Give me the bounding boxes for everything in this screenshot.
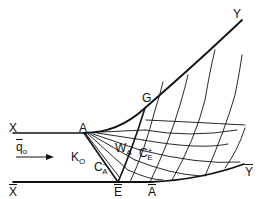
label-x: X	[9, 122, 17, 134]
diagram-lines	[0, 0, 261, 199]
upper-wall-curve	[84, 20, 242, 133]
label-e-bar: E	[114, 186, 122, 198]
label-g: G	[142, 92, 151, 104]
diagram: X X Y Y A A G E qo KO WA C−A C+E	[0, 0, 261, 199]
label-ce-plus: C+E	[139, 147, 153, 159]
label-a-bar: A	[148, 186, 156, 198]
label-a: A	[79, 122, 87, 134]
label-y: Y	[233, 8, 241, 20]
label-x-bar: X	[9, 186, 17, 198]
label-k0: KO	[71, 151, 85, 163]
label-wa: WA	[115, 142, 132, 154]
label-q0: qo	[16, 141, 27, 153]
label-y-bar: Y	[245, 166, 253, 178]
label-ca-minus: C−A	[94, 161, 108, 173]
